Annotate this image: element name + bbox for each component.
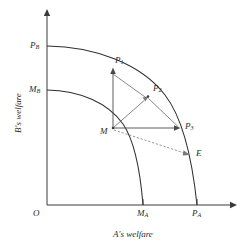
- segment-group: [110, 68, 190, 156]
- segment-P2-to-P3: [149, 99, 179, 128]
- segment-P1-to-P2: [113, 74, 147, 98]
- dot-P2: [147, 95, 150, 98]
- inner-frontier-curve: [47, 90, 143, 205]
- label-PA: PA: [192, 209, 201, 219]
- x-axis-arrowhead: [230, 202, 237, 208]
- label-M: M: [100, 127, 108, 137]
- label-origin: O: [33, 209, 40, 218]
- x-axis-title: A's welfare: [113, 230, 153, 239]
- arrowhead-P1: [110, 68, 116, 75]
- label-MA: MA: [137, 209, 148, 219]
- label-PB: PB: [30, 41, 39, 51]
- label-E: E: [196, 149, 202, 159]
- label-P3: P3: [185, 122, 194, 132]
- label-P2: P2: [153, 84, 162, 94]
- segment-M-to-E: [114, 130, 185, 153]
- y-axis-arrowhead: [44, 9, 50, 16]
- segment-M-to-P2: [113, 101, 144, 129]
- y-axis-title: B's welfare: [14, 93, 23, 133]
- label-MB: MB: [29, 85, 40, 95]
- figure-container: PB MB MA PA O P1 P2 P3 E M A's welfare B…: [0, 0, 246, 248]
- tick-group: [143, 199, 197, 205]
- label-P1: P1: [115, 56, 124, 66]
- dot-M: [112, 127, 115, 130]
